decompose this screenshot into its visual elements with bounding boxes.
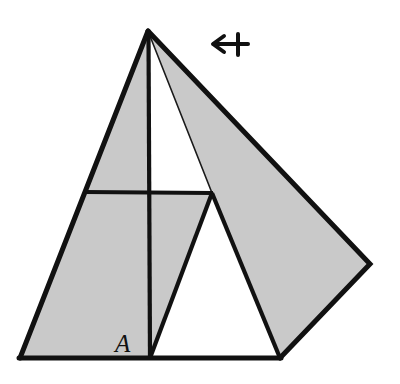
diagram-canvas	[0, 0, 400, 384]
region-label-a: A	[115, 331, 130, 356]
edge-vertical-altitude	[149, 33, 151, 358]
fold-direction-arrow	[213, 34, 248, 55]
geometry-figure: A	[0, 0, 400, 384]
edge-crossbar-horizontal	[84, 192, 213, 193]
